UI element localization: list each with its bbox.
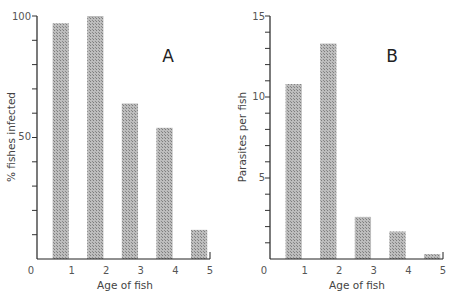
chart-a-x-tick-labels: 012345 (28, 265, 213, 276)
chart-a-bar-2-3 (122, 103, 138, 259)
chart-b-x-axis-title: Age of fish (329, 279, 385, 291)
chart-b-y-tick-10: 10 (252, 91, 265, 102)
x-tick-label: 4 (405, 265, 411, 276)
chart-b-y-axis-title: Parasites per fish (236, 92, 248, 182)
chart-a-bar-0-1 (53, 23, 69, 259)
chart-b-bars (286, 44, 441, 259)
chart-a-bar-3-4 (156, 128, 172, 259)
x-tick-label: 3 (138, 265, 144, 276)
chart-a-bars (53, 16, 208, 259)
x-tick-label: 5 (207, 265, 213, 276)
x-tick-label: 1 (301, 265, 307, 276)
chart-b-bar-1-2 (320, 44, 336, 259)
chart-b-y-ticks (265, 16, 270, 243)
chart-a: 012345 100 50 % fishes infected Age of f… (5, 11, 213, 291)
chart-b-y-tick-5: 5 (259, 172, 265, 183)
chart-b-bar-0-1 (286, 84, 302, 259)
chart-a-x-axis-title: Age of fish (97, 279, 153, 291)
chart-a-bar-4-5 (191, 230, 207, 259)
x-tick-label: 2 (103, 265, 109, 276)
chart-a-bar-1-2 (87, 16, 103, 259)
chart-b-panel-label: B (386, 46, 398, 66)
chart-a-y-axis-title: % fishes infected (5, 92, 17, 182)
chart-b-bar-4-5 (424, 254, 440, 259)
chart-a-y-ticks (32, 16, 37, 235)
x-tick-label: 0 (28, 265, 34, 276)
x-tick-label: 5 (440, 265, 446, 276)
chart-a-panel-label: A (162, 46, 174, 66)
x-tick-label: 3 (371, 265, 377, 276)
chart-b: 012345 15 10 5 Parasites per fish Age of… (236, 11, 446, 291)
chart-a-y-tick-100: 100 (12, 11, 31, 22)
x-tick-label: 2 (336, 265, 342, 276)
chart-b-x-tick-labels: 012345 (261, 265, 446, 276)
chart-b-bar-2-3 (355, 217, 371, 259)
x-tick-label: 0 (261, 265, 267, 276)
chart-b-y-tick-15: 15 (252, 11, 265, 22)
figure: 012345 100 50 % fishes infected Age of f… (0, 0, 452, 301)
x-tick-label: 1 (68, 265, 74, 276)
chart-a-y-tick-50: 50 (18, 131, 31, 142)
chart-b-bar-3-4 (389, 231, 405, 259)
x-tick-label: 4 (172, 265, 178, 276)
